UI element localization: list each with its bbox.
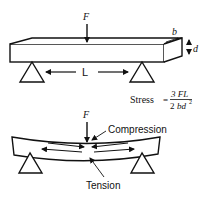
stress-formula: Stress = 3 FL 2 bd 2 bbox=[130, 89, 192, 111]
straight-beam bbox=[10, 38, 182, 62]
support-left-top bbox=[20, 62, 44, 82]
span-label: L bbox=[82, 66, 88, 78]
width-label: b bbox=[172, 26, 177, 37]
formula-denominator-exp: 2 bbox=[189, 99, 192, 105]
depth-label: d bbox=[193, 43, 199, 54]
formula-denominator-coef: 2 bbox=[170, 101, 175, 111]
compression-leader-arrow bbox=[92, 131, 106, 140]
tension-label: Tension bbox=[86, 180, 120, 191]
force-label-bottom: F bbox=[82, 109, 90, 120]
formula-numerator: 3 FL bbox=[170, 89, 188, 99]
force-label-top: F bbox=[82, 11, 90, 22]
bent-beam bbox=[12, 137, 160, 161]
support-right-top bbox=[130, 62, 154, 82]
formula-equals: = bbox=[163, 95, 168, 105]
compression-label: Compression bbox=[108, 124, 167, 135]
formula-prefix: Stress bbox=[130, 94, 154, 105]
beam-bending-diagram: F b d L Stress = 3 FL 2 bd 2 F bbox=[0, 0, 206, 201]
formula-denominator-var: bd bbox=[177, 101, 187, 111]
